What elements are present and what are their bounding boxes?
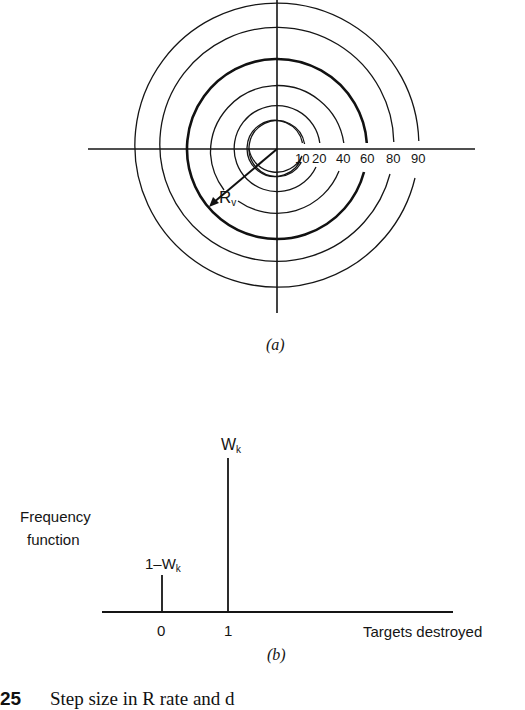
x-tick-1: 1	[224, 623, 232, 638]
bar-1-label-sub: k	[236, 444, 241, 455]
bar-0-label-sub: k	[176, 563, 181, 574]
bar-0-label-main: 1–W	[145, 555, 176, 572]
x-axis-label: Targets destroyed	[363, 624, 482, 639]
panel-b-caption: (b)	[267, 647, 286, 663]
radius-label-main: R	[219, 188, 231, 207]
ring-label-60: 60	[360, 152, 374, 165]
x-tick-0: 0	[157, 623, 165, 638]
ring-label-10: 10	[295, 152, 309, 165]
radius-label-sub: v	[231, 197, 236, 208]
bar-1-label-main: W	[221, 436, 236, 453]
bar-1-value-label: Wk	[221, 437, 241, 455]
radius-label: Rv	[219, 189, 236, 208]
y-axis-label-line2: function	[27, 532, 80, 547]
panel-a-caption: (a)	[266, 337, 285, 353]
figure-caption: 25 Step size in R rate and d	[0, 688, 235, 710]
ring-label-20: 20	[312, 152, 326, 165]
ring-label-80: 80	[386, 152, 400, 165]
figure-caption-text: Step size in R rate and d	[50, 688, 235, 709]
bar-0-value-label: 1–Wk	[145, 556, 181, 574]
ring-label-40: 40	[336, 152, 350, 165]
figure-number: 25	[0, 688, 21, 709]
y-axis-label-line1: Frequency	[20, 509, 91, 524]
ring-label-90: 90	[411, 152, 425, 165]
